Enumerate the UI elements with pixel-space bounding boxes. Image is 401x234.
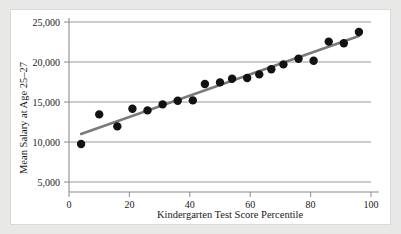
x-tick-label-0: 0: [67, 199, 72, 210]
data-point: [158, 100, 166, 108]
x-tick-label-20: 20: [124, 199, 134, 210]
data-point: [243, 74, 251, 82]
scatter-plot: 5,00010,00015,00020,00025,000 0204060801…: [11, 10, 392, 226]
y-tick-label-5000: 5,000: [38, 177, 61, 188]
gridlines-group: [69, 22, 371, 182]
data-point: [189, 96, 197, 104]
data-point: [309, 57, 317, 65]
data-point: [201, 80, 209, 88]
x-tick-label-80: 80: [306, 199, 316, 210]
chart-svg: 5,00010,00015,00020,00025,000 0204060801…: [11, 10, 392, 226]
y-tick-label-25000: 25,000: [33, 17, 61, 28]
data-point: [216, 78, 224, 86]
figure-panel: 5,00010,00015,00020,00025,000 0204060801…: [10, 9, 391, 225]
data-point: [113, 122, 121, 130]
data-point: [143, 106, 151, 114]
y-tick-label-15000: 15,000: [33, 97, 61, 108]
y-tick-label-10000: 10,000: [33, 137, 61, 148]
data-point: [279, 60, 287, 68]
data-point: [228, 75, 236, 83]
data-point: [174, 97, 182, 105]
data-point: [340, 39, 348, 47]
y-tick-label-20000: 20,000: [33, 57, 61, 68]
data-point: [267, 65, 275, 73]
x-tick-label-100: 100: [364, 199, 379, 210]
data-point: [355, 28, 363, 36]
data-points-group: [77, 28, 363, 148]
y-tick-labels-group: 5,00010,00015,00020,00025,000: [33, 17, 61, 188]
data-point: [77, 140, 85, 148]
data-point: [95, 110, 103, 118]
data-point: [294, 55, 302, 63]
x-axis-title: Kindergarten Test Score Percentile: [157, 209, 303, 220]
data-point: [255, 70, 263, 78]
data-point: [325, 37, 333, 45]
data-point: [128, 105, 136, 113]
y-axis-title: Mean Salary at Age 25–27: [18, 62, 29, 174]
